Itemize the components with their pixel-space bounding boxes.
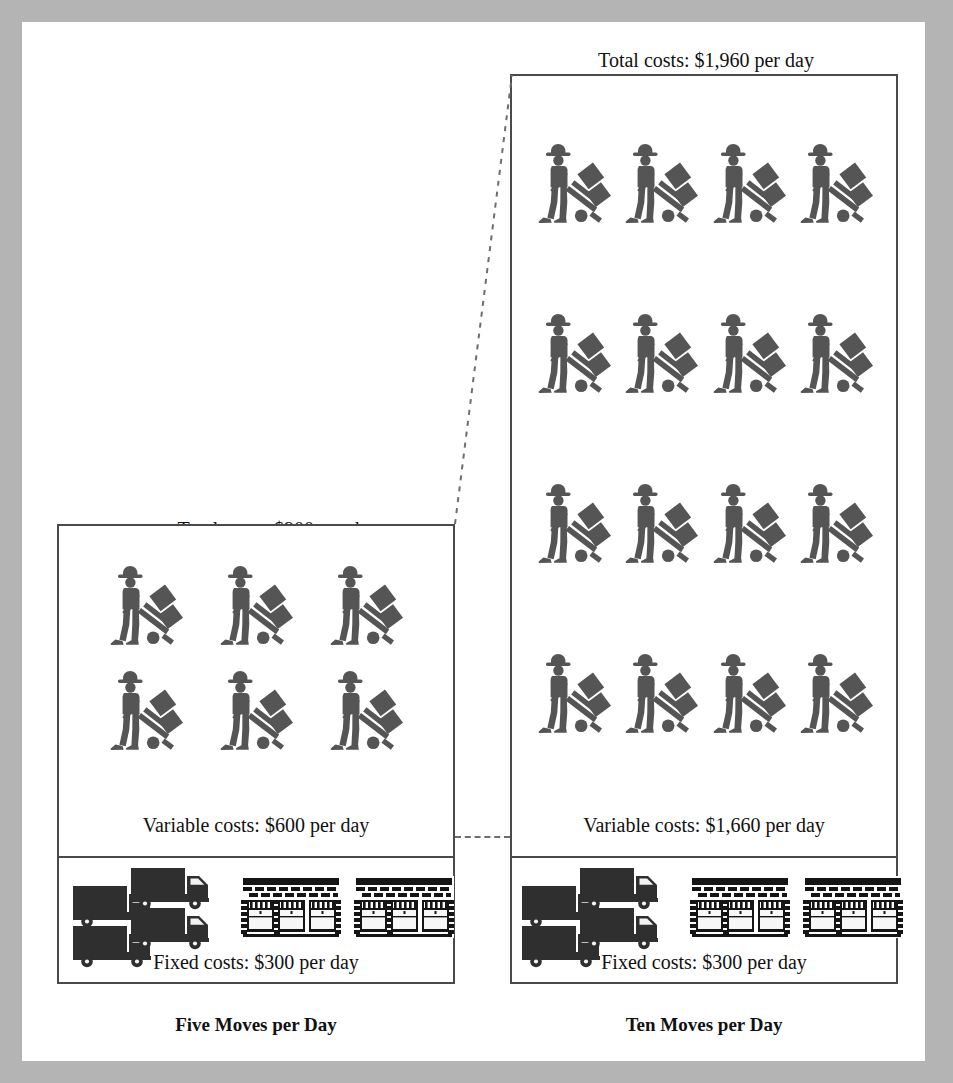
worker-handtruck-icon xyxy=(624,141,698,237)
right-fixed-costs-label: Fixed costs: $300 per day xyxy=(512,951,896,974)
panel-five-moves: Variable costs: $600 per day xyxy=(57,524,455,984)
worker-handtruck-icon xyxy=(624,311,698,407)
box-truck-icon xyxy=(578,904,664,956)
worker-handtruck-icon xyxy=(624,651,698,747)
warehouse-dock-icon xyxy=(354,876,454,942)
worker-handtruck-icon xyxy=(329,668,403,764)
worker-handtruck-icon xyxy=(712,651,786,747)
worker-handtruck-icon xyxy=(799,481,873,577)
right-variable-fixed-divider xyxy=(512,856,896,858)
worker-handtruck-icon xyxy=(799,311,873,407)
right-variable-costs-label: Variable costs: $1,660 per day xyxy=(512,814,896,837)
worker-handtruck-icon xyxy=(329,563,403,659)
right-panel-caption: Ten Moves per Day xyxy=(510,1014,898,1036)
worker-handtruck-icon xyxy=(799,651,873,747)
left-worker-grid xyxy=(91,558,421,768)
warehouse-dock-icon xyxy=(241,876,341,942)
right-worker-grid xyxy=(530,104,880,784)
horizontal-connector-line xyxy=(455,836,510,838)
worker-handtruck-icon xyxy=(219,563,293,659)
right-fixed-assets-row xyxy=(520,864,892,954)
left-truck-group xyxy=(71,864,231,956)
left-variable-fixed-divider xyxy=(59,856,453,858)
worker-handtruck-icon xyxy=(537,141,611,237)
worker-handtruck-icon xyxy=(712,481,786,577)
left-fixed-assets-row xyxy=(71,864,443,954)
panel-ten-moves: Variable costs: $1,660 per day xyxy=(510,74,898,984)
worker-handtruck-icon xyxy=(537,311,611,407)
left-variable-costs-label: Variable costs: $600 per day xyxy=(59,814,453,837)
right-truck-group xyxy=(520,864,680,956)
box-truck-icon xyxy=(129,904,215,956)
left-fixed-costs-label: Fixed costs: $300 per day xyxy=(59,951,453,974)
worker-handtruck-icon xyxy=(109,668,183,764)
worker-handtruck-icon xyxy=(624,481,698,577)
warehouse-dock-icon xyxy=(803,876,903,942)
left-panel-caption: Five Moves per Day xyxy=(57,1014,455,1036)
right-total-costs-caption: Total costs: $1,960 per day xyxy=(512,48,900,72)
worker-handtruck-icon xyxy=(109,563,183,659)
worker-handtruck-icon xyxy=(799,141,873,237)
warehouse-dock-icon xyxy=(690,876,790,942)
worker-handtruck-icon xyxy=(712,141,786,237)
worker-handtruck-icon xyxy=(219,668,293,764)
worker-handtruck-icon xyxy=(712,311,786,407)
worker-handtruck-icon xyxy=(537,651,611,747)
worker-handtruck-icon xyxy=(537,481,611,577)
figure-page: Total costs: $900 per day xyxy=(22,22,925,1061)
